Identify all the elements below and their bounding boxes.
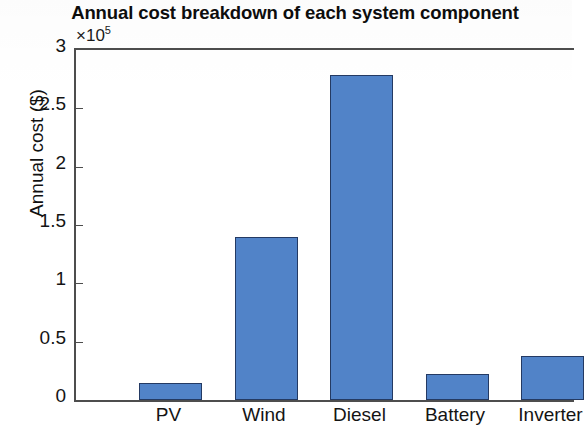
bar-pv <box>139 383 202 401</box>
x-tick-label-battery: Battery <box>425 404 485 426</box>
x-tick-label-diesel: Diesel <box>333 404 386 426</box>
bar-diesel <box>330 75 393 401</box>
y-tick-label: 1 <box>4 268 66 290</box>
x-tick-label-inverter: Inverter <box>518 404 582 426</box>
bar-wind <box>235 237 298 400</box>
x-tick-label-pv: PV <box>156 404 181 426</box>
bar-battery <box>426 374 489 400</box>
y-tick-label: 0 <box>4 385 66 407</box>
y-axis-exponent-power: 5 <box>105 24 111 36</box>
y-tick-label: 2.5 <box>4 93 66 115</box>
plot-area <box>74 48 574 402</box>
y-tick-label: 3 <box>4 35 66 57</box>
y-tick-label: 0.5 <box>4 327 66 349</box>
y-tick-label: 2 <box>4 152 66 174</box>
x-tick-label-wind: Wind <box>242 404 285 426</box>
y-axis-exponent-base: ×10 <box>76 26 105 45</box>
chart-title: Annual cost breakdown of each system com… <box>0 2 572 24</box>
y-tick-label: 1.5 <box>4 210 66 232</box>
bar-inverter <box>521 356 584 400</box>
y-axis-exponent-label: ×105 <box>76 26 111 46</box>
bar-series <box>76 50 574 400</box>
